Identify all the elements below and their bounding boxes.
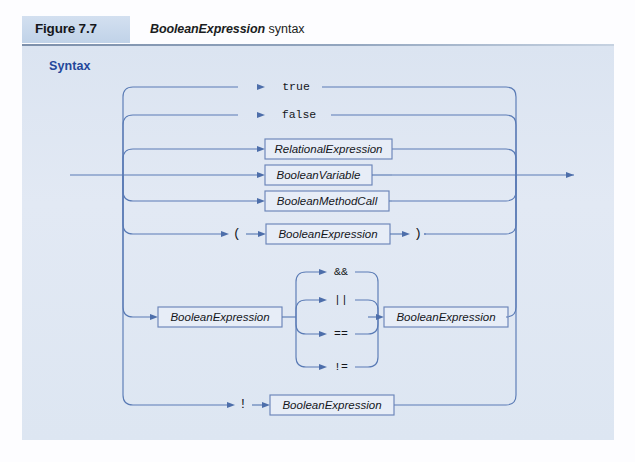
open-paren-arrowhead	[221, 231, 229, 237]
figure-page: Figure 7.7 BooleanExpression syntax Synt…	[0, 0, 635, 462]
operator-merge-and	[355, 272, 378, 317]
right-merge-spine	[392, 87, 516, 405]
boolean-variable-label: BooleanVariable	[277, 169, 361, 181]
paren-boolean-expression-label: BooleanExpression	[278, 228, 377, 240]
paren-expression-arrowhead	[258, 231, 266, 237]
terminal-false: false	[282, 108, 317, 121]
operator-and-arrowhead	[319, 269, 327, 275]
operator-branch-and	[296, 272, 319, 317]
railroad-diagram: true false RelationalExpression BooleanV…	[22, 46, 614, 440]
figure-number-label: Figure 7.7	[35, 21, 97, 36]
relational-expression-label: RelationalExpression	[274, 143, 382, 155]
negation-expression-arrowhead	[262, 402, 270, 408]
not-operator-arrowhead	[227, 402, 235, 408]
branch-to-paren-group	[123, 175, 222, 234]
branch-to-negation	[123, 175, 227, 405]
operator-merge-eq	[355, 317, 378, 334]
true-arrowhead	[257, 84, 265, 90]
merge-from-false	[413, 115, 516, 175]
false-arrowhead	[257, 112, 265, 118]
operator-and-label: &&	[334, 265, 348, 278]
figure-caption: BooleanExpression syntax	[150, 22, 305, 36]
branch-to-boolean-method-call	[123, 175, 257, 201]
terminal-not-operator: !	[239, 397, 247, 412]
operator-merge-neq	[355, 317, 378, 367]
alternative-relational-expression: RelationalExpression	[257, 139, 392, 159]
branch-to-false	[123, 115, 238, 175]
operator-branch-eq	[296, 317, 319, 334]
relational-expression-arrowhead	[257, 146, 265, 152]
close-paren-arrowhead	[402, 231, 410, 237]
boolean-method-call-arrowhead	[257, 198, 265, 204]
operator-branch-or	[296, 300, 319, 317]
figure-header: Figure 7.7 BooleanExpression syntax	[22, 16, 614, 43]
binary-right-boolean-expression-label: BooleanExpression	[396, 311, 495, 323]
branch-to-relational-expression	[123, 149, 257, 175]
terminal-open-paren: (	[233, 226, 241, 241]
figure-caption-suffix: syntax	[265, 22, 305, 36]
syntax-panel: Syntax	[22, 46, 614, 440]
figure-caption-rule-name: BooleanExpression	[150, 22, 265, 36]
branch-to-true	[123, 87, 238, 175]
operator-eq-arrowhead	[319, 331, 327, 337]
merge-from-true	[393, 87, 516, 175]
alternative-negation: ! BooleanExpression	[227, 395, 394, 415]
branch-to-binary-op	[123, 175, 150, 317]
boolean-variable-arrowhead	[257, 172, 265, 178]
operator-or-arrowhead	[319, 297, 327, 303]
operator-merge-or	[355, 300, 378, 317]
binary-left-arrowhead	[150, 314, 158, 320]
figure-number-box: Figure 7.7	[22, 16, 130, 43]
binary-right-arrowhead	[376, 314, 384, 320]
operator-neq-label: !=	[334, 360, 348, 373]
merge-from-boolean-method-call	[392, 175, 516, 201]
operator-branch-neq	[296, 317, 319, 367]
alternative-boolean-variable: BooleanVariable	[257, 165, 392, 185]
merge-from-negation	[394, 175, 516, 405]
boolean-method-call-label: BooleanMethodCall	[277, 195, 378, 207]
merge-from-relational-expression	[392, 149, 516, 175]
alternative-parenthesized: ( BooleanExpression )	[221, 224, 426, 244]
merge-from-binary-op	[500, 175, 516, 317]
alternative-binary-operation: BooleanExpression && || == !=	[150, 265, 508, 373]
left-branch-spine	[123, 87, 257, 405]
terminal-close-paren: )	[414, 226, 422, 241]
alternative-true: true	[257, 80, 393, 93]
exit-arrowhead	[566, 172, 574, 178]
operator-neq-arrowhead	[319, 364, 327, 370]
alternative-false: false	[257, 108, 413, 121]
terminal-true: true	[282, 80, 310, 93]
negation-boolean-expression-label: BooleanExpression	[282, 399, 381, 411]
operator-eq-label: ==	[334, 327, 348, 340]
operator-choice-group: && || == !=	[296, 265, 378, 373]
binary-left-boolean-expression-label: BooleanExpression	[170, 311, 269, 323]
alternative-boolean-method-call: BooleanMethodCall	[257, 191, 392, 211]
operator-or-label: ||	[334, 293, 348, 306]
merge-from-paren-group	[424, 175, 516, 234]
